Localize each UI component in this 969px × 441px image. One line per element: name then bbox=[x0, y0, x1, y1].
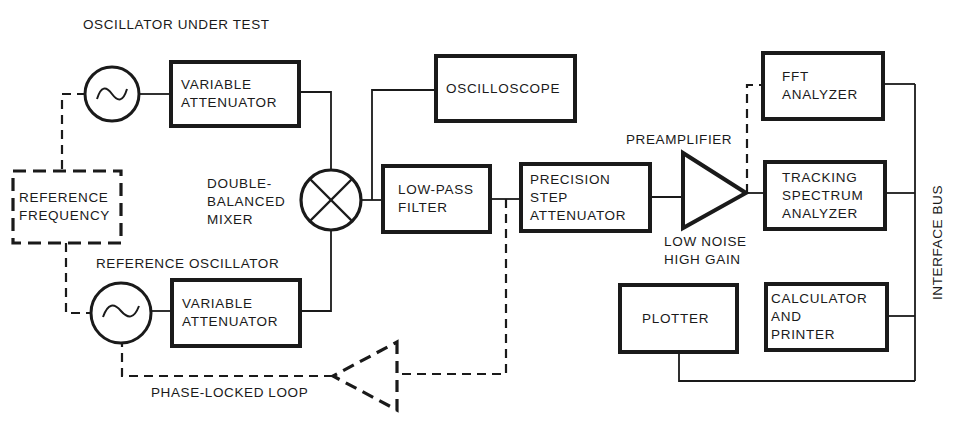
dashed-amplifier-triangle-icon bbox=[333, 342, 397, 410]
oscillator-under-test-label: OSCILLATOR UNDER TEST bbox=[83, 16, 270, 34]
reference-frequency-block: REFERENCE FREQUENCY bbox=[19, 171, 110, 243]
mixer-x-icon bbox=[301, 170, 361, 230]
reference-oscillator-label: REFERENCE OSCILLATOR bbox=[96, 255, 279, 273]
oscilloscope-block: OSCILLOSCOPE bbox=[446, 56, 560, 121]
sine-source-icon bbox=[85, 67, 139, 121]
plotter-block: PLOTTER bbox=[642, 285, 709, 352]
fft-analyzer-block: FFT ANALYZER bbox=[782, 53, 858, 119]
calculator-printer-block: CALCULATOR AND PRINTER bbox=[771, 284, 868, 350]
variable-attenuator-top-block: VARIABLE ATTENUATOR bbox=[181, 62, 277, 126]
phase-noise-test-diagram: OSCILLATOR UNDER TEST REFERENCE OSCILLAT… bbox=[0, 0, 969, 441]
preamp-description-label: LOW NOISE HIGH GAIN bbox=[664, 233, 747, 269]
sine-source-icon bbox=[91, 283, 151, 343]
variable-attenuator-bottom-block: VARIABLE ATTENUATOR bbox=[182, 280, 278, 346]
phase-locked-loop-label: PHASE-LOCKED LOOP bbox=[151, 384, 308, 402]
mixer-label: DOUBLE- BALANCED MIXER bbox=[207, 175, 285, 229]
tracking-spectrum-analyzer-block: TRACKING SPECTRUM ANALYZER bbox=[782, 162, 863, 229]
preamplifier-label: PREAMPLIFIER bbox=[626, 131, 732, 149]
low-pass-filter-block: LOW-PASS FILTER bbox=[398, 166, 474, 232]
interface-bus-label: INTERFACE BUS bbox=[929, 185, 947, 300]
amplifier-triangle-icon bbox=[683, 153, 746, 228]
precision-step-attenuator-block: PRECISION STEP ATTENUATOR bbox=[530, 164, 626, 231]
